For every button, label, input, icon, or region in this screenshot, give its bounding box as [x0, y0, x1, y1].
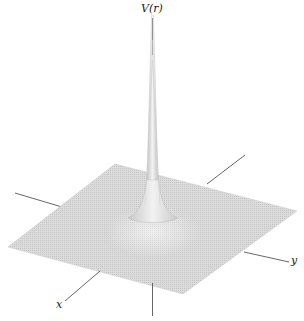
v-axis-label: V(r): [141, 2, 163, 15]
y-axis-label: y: [291, 254, 297, 267]
x-axis-label: x: [56, 298, 62, 311]
y-axis-back-line: [207, 155, 245, 184]
x-axis-back-line: [15, 193, 62, 207]
x-axis-front-line: [65, 271, 100, 301]
y-axis-front-line: [244, 252, 289, 262]
potential-surface-figure: [0, 0, 304, 321]
